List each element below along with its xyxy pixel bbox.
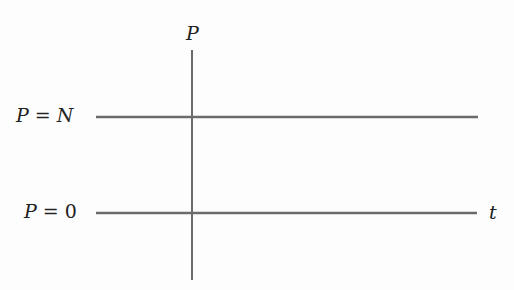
diagram-lines <box>0 0 514 290</box>
equilibrium-n-val: N <box>57 104 74 126</box>
equilibrium-label-zero: P = 0 <box>24 202 77 221</box>
equilibrium-zero-val: 0 <box>65 200 77 222</box>
horizontal-axis-label: t <box>489 203 497 222</box>
equilibrium-zero-var: P <box>24 200 37 222</box>
equilibrium-zero-eq: = <box>43 200 59 222</box>
phase-diagram: P P = N P = 0 t <box>0 0 514 290</box>
vertical-axis-label: P <box>186 24 199 43</box>
equilibrium-n-eq: = <box>35 104 51 126</box>
equilibrium-label-n: P = N <box>16 106 73 125</box>
equilibrium-n-var: P <box>16 104 29 126</box>
